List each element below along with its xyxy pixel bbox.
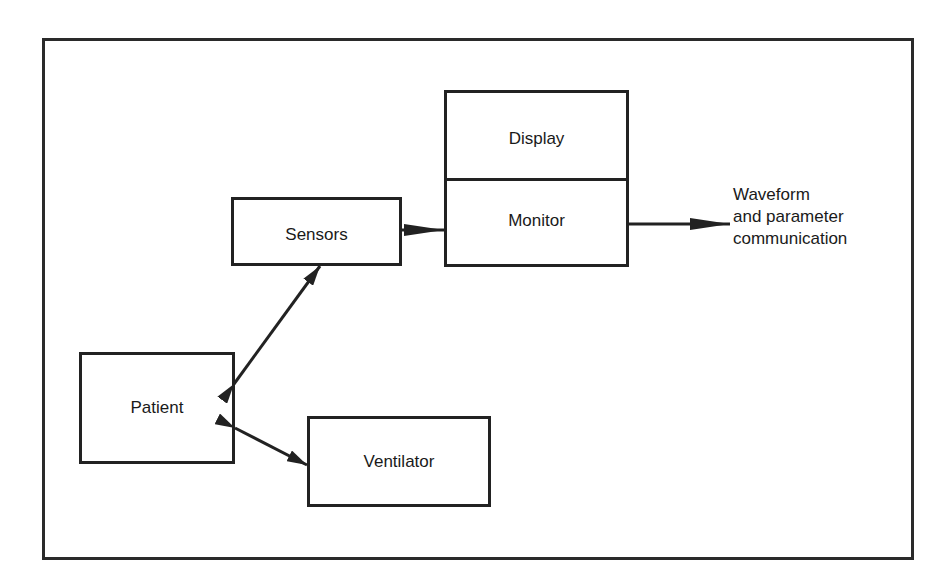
patient-ventilator-arrow <box>235 428 307 465</box>
patient-sensors-arrow <box>234 266 320 384</box>
connector-arrows <box>0 0 950 581</box>
